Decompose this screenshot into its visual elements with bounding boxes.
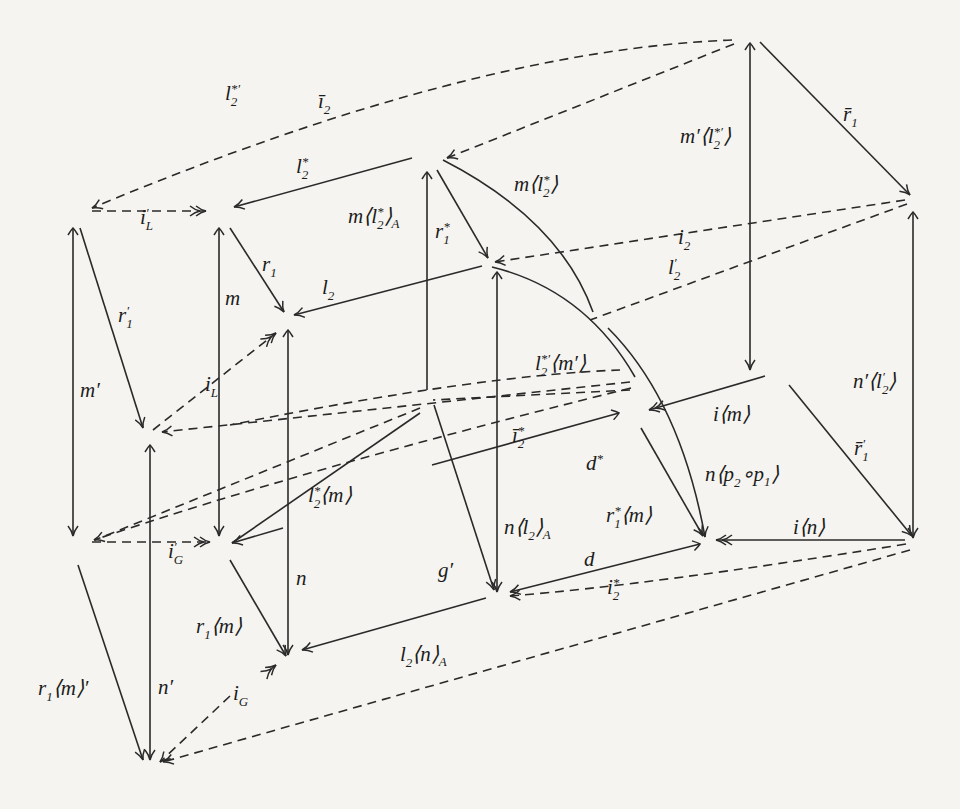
label-d-star: d* (586, 452, 603, 478)
label-i-L-prime: i′L (140, 206, 153, 232)
edge-l2star-m (232, 413, 420, 543)
label-i-G: i G (233, 682, 248, 708)
label-l2star-m: l*2⟨m⟩ (308, 484, 352, 510)
label-l2-prime: l′2 (668, 256, 680, 282)
edge-d (510, 544, 700, 592)
label-i-n: i⟨n⟩ (793, 517, 825, 538)
label-d: d (584, 549, 595, 570)
label-r1-m: r 1⟨m⟩ (196, 615, 242, 641)
label-l2star: l*2 (296, 155, 308, 181)
label-r1-bar: r̄ 1 (843, 103, 858, 129)
label-i2-bar: ī 2 (318, 90, 330, 116)
edge-l2-prime-n-prime (163, 550, 910, 762)
edge-r1-m (230, 560, 286, 656)
label-r1-bar-prime: r̄′1 (854, 437, 869, 463)
label-n-l2-A: n⟨l 2⟩A (504, 516, 551, 542)
edge-l2star-m-b (232, 528, 283, 543)
edge-r1-bar (760, 42, 910, 195)
label-i-m: i⟨m⟩ (713, 404, 750, 425)
label-r1: r 1 (262, 253, 277, 279)
label-i2: i 2 (678, 226, 690, 252)
label-i-L: i L (205, 373, 218, 399)
label-r1star: r*1 (435, 220, 450, 246)
label-l2: l 2 (322, 276, 334, 302)
label-l2-n-A: l 2⟨n⟩A (400, 643, 447, 669)
edge-l2star (234, 158, 412, 207)
label-m-l2star: m⟨l*2⟩ (514, 173, 558, 199)
edge-l2-n-A (302, 598, 486, 650)
label-r1-prime: r′1 (118, 304, 133, 330)
label-i-G-prime: i′G (168, 540, 183, 566)
commutative-diagram (0, 0, 960, 809)
label-l2star-prime-m-prime: l*′2⟨m′⟩ (535, 352, 586, 378)
label-m-l2star-A: m⟨l*2⟩A (348, 205, 399, 231)
label-g-prime: g′ (438, 560, 453, 581)
edge-i-G-head (270, 665, 276, 670)
label-r1-m-prime: r 1⟨m⟩′ (38, 677, 88, 703)
label-n-p2-p1: n⟨p 2∘p1⟩ (705, 463, 779, 489)
edge-r1-m-prime (78, 565, 143, 760)
label-m-prime-l2star-prime: m′⟨l*′2⟩ (680, 125, 731, 151)
label-m-prime: m′ (80, 380, 100, 401)
label-n: n (296, 568, 307, 589)
edge-l2-prime (590, 204, 907, 320)
label-n-prime-l2-prime: n′⟨l′2⟩ (853, 370, 896, 396)
edge-l2star-prime (92, 40, 732, 208)
edge-i2 (495, 200, 905, 262)
label-m: m (225, 288, 240, 309)
edge-dashed-left-extra (95, 408, 420, 540)
edge-i2star (510, 544, 906, 596)
label-i2star-bar: ī*2 (512, 424, 524, 450)
label-i2star: i*2 (607, 576, 619, 602)
label-l2star-prime: l*′2 (225, 82, 240, 108)
label-n-prime: n′ (158, 677, 173, 698)
edge-r1-bar-prime (789, 385, 912, 536)
diagram-page: l*′2ī 2r̄ 1m′⟨l*′2⟩l*2i′Lm⟨l*2⟩Am⟨l*2⟩r*… (0, 0, 960, 809)
label-r1star-m: r*1⟨m⟩ (606, 504, 652, 530)
